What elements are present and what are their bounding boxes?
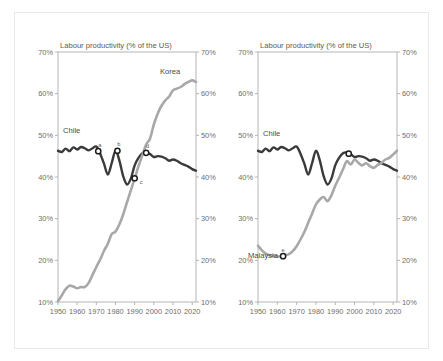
annotation-label-e: e: [282, 247, 285, 253]
annotation-label-d: d: [146, 143, 149, 149]
series-line-chile: [58, 146, 196, 184]
y-tick-label-right: 10%: [201, 298, 216, 307]
y-tick-label-left: 70%: [238, 48, 253, 57]
y-tick-label-left: 20%: [38, 256, 53, 265]
y-tick-label-left: 40%: [38, 173, 53, 182]
annotation-marker: [96, 149, 101, 154]
chart-panel-right: 10%10%20%20%30%30%40%40%50%50%60%60%70%7…: [221, 0, 443, 361]
y-tick-label-left: 30%: [238, 214, 253, 223]
series-label-korea: Korea: [160, 67, 181, 76]
x-tick-label: 1960: [269, 307, 285, 316]
y-tick-label-left: 60%: [38, 89, 53, 98]
y-tick-label-right: 50%: [201, 131, 216, 140]
y-tick-label-left: 10%: [38, 298, 53, 307]
x-tick-label: 1990: [327, 307, 343, 316]
chart-panel-left: 10%10%20%20%30%30%40%40%50%50%60%60%70%7…: [0, 0, 221, 361]
y-tick-label-left: 40%: [238, 173, 253, 182]
annotation-label-a: a: [98, 142, 102, 148]
y-tick-label-left: 50%: [38, 131, 53, 140]
chart-svg-left: 10%10%20%20%30%30%40%40%50%50%60%60%70%7…: [0, 0, 221, 361]
axis-title: Labour productivity (% of the US): [60, 41, 172, 50]
x-tick-label: 1950: [250, 307, 266, 316]
series-label-chile: Chile: [63, 126, 80, 135]
y-tick-label-right: 60%: [201, 89, 216, 98]
x-tick-label: 2010: [165, 307, 181, 316]
y-tick-label-right: 20%: [402, 256, 417, 265]
y-tick-label-left: 50%: [238, 131, 253, 140]
series-label-malaysia: Malaysia: [248, 251, 279, 260]
y-tick-label-right: 70%: [402, 48, 417, 57]
y-tick-label-right: 70%: [201, 48, 216, 57]
y-tick-label-left: 30%: [38, 214, 53, 223]
y-tick-label-right: 50%: [402, 131, 417, 140]
x-tick-label: 1980: [107, 307, 123, 316]
series-label-chile: Chile: [263, 129, 280, 138]
x-tick-label: 1960: [69, 307, 85, 316]
annotation-label-b: b: [117, 141, 120, 147]
annotation-marker: [132, 176, 137, 181]
x-tick-label: 2000: [346, 307, 362, 316]
y-tick-label-right: 30%: [402, 214, 417, 223]
x-tick-label: 2020: [184, 307, 200, 316]
annotation-marker: [115, 148, 120, 153]
y-tick-label-right: 30%: [201, 214, 216, 223]
x-tick-label: 1980: [308, 307, 324, 316]
annotation-marker: [144, 150, 149, 155]
series-line-korea: [58, 80, 196, 301]
x-tick-label: 2010: [366, 307, 382, 316]
y-tick-label-right: 20%: [201, 256, 216, 265]
y-tick-label-right: 40%: [402, 173, 417, 182]
y-tick-label-right: 10%: [402, 298, 417, 307]
y-tick-label-right: 60%: [402, 89, 417, 98]
y-tick-label-right: 40%: [201, 173, 216, 182]
figure-container: 10%10%20%20%30%30%40%40%50%50%60%60%70%7…: [0, 0, 443, 361]
chart-svg-right: 10%10%20%20%30%30%40%40%50%50%60%60%70%7…: [221, 0, 443, 361]
plot-border: [258, 52, 397, 302]
annotation-label-c: c: [140, 179, 143, 185]
x-tick-label: 1950: [50, 307, 66, 316]
x-tick-label: 2020: [385, 307, 401, 316]
x-tick-label: 2000: [146, 307, 162, 316]
y-tick-label-left: 70%: [38, 48, 53, 57]
axis-title: Labour productivity (% of the US): [260, 41, 372, 50]
series-line-malaysia: [258, 151, 397, 257]
annotation-marker: [346, 151, 351, 156]
y-tick-label-left: 10%: [238, 298, 253, 307]
x-tick-label: 1990: [126, 307, 142, 316]
x-tick-label: 1970: [88, 307, 104, 316]
annotation-marker: [280, 254, 285, 259]
y-tick-label-left: 60%: [238, 89, 253, 98]
x-tick-label: 1970: [288, 307, 304, 316]
